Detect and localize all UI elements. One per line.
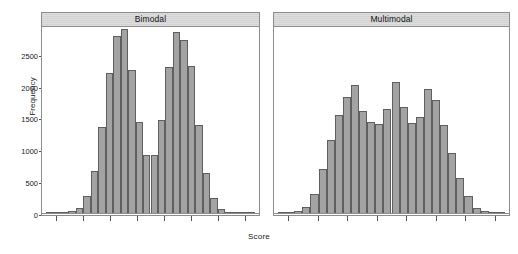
y-axis-tick-label: 0 <box>14 211 38 220</box>
histogram-bar <box>319 169 327 214</box>
panel-multimodal: Multimodal <box>273 12 510 216</box>
x-axis-tick-mark <box>495 216 496 221</box>
plot-area-bimodal <box>41 27 260 216</box>
histogram-bar <box>448 153 456 214</box>
histogram-bar <box>367 122 375 214</box>
x-axis-tick-mark <box>245 216 246 221</box>
histogram-bar <box>203 173 210 214</box>
x-axis-tick-mark <box>56 216 57 221</box>
x-axis-tick-mark <box>465 216 466 221</box>
y-axis-tick-label: 500 <box>14 179 38 188</box>
x-axis-tick-mark <box>288 216 289 221</box>
histogram-bar <box>136 122 143 214</box>
panel-strip-bimodal: Bimodal <box>41 12 260 27</box>
histogram-bar <box>151 155 158 214</box>
x-axis-tick-mark <box>137 216 138 221</box>
x-axis-tick-mark <box>347 216 348 221</box>
histogram-bar <box>432 100 440 214</box>
x-axis-tick-mark <box>377 216 378 221</box>
histogram-bar <box>359 111 367 214</box>
x-axis-tick-mark <box>406 216 407 221</box>
histogram-bar <box>121 29 128 214</box>
x-axis-bimodal <box>41 216 260 226</box>
panel-title-multimodal: Multimodal <box>370 15 412 24</box>
histogram-bar <box>456 178 464 214</box>
histogram-bar <box>91 171 98 214</box>
baseline-multimodal <box>274 213 509 214</box>
y-axis-tick-label: 1500 <box>14 115 38 124</box>
y-axis-tick-label: 2000 <box>14 83 38 92</box>
bar-group-bimodal <box>42 27 259 214</box>
histogram-figure: Frequency 05001000150020002500 Bimodal M… <box>0 0 518 254</box>
baseline-bimodal <box>42 213 259 214</box>
histogram-bar <box>210 198 217 214</box>
y-axis-tick-labels: 05001000150020002500 <box>14 0 38 254</box>
histogram-bar <box>327 140 335 214</box>
histogram-bar <box>195 125 202 214</box>
histogram-bar <box>158 120 165 214</box>
histogram-bar <box>143 155 150 214</box>
histogram-bar <box>408 123 416 214</box>
histogram-bar <box>383 109 391 214</box>
histogram-bar <box>128 70 135 214</box>
histogram-bar <box>392 82 400 214</box>
x-axis-multimodal <box>273 216 510 226</box>
panel-bimodal: Bimodal <box>41 12 260 216</box>
histogram-bar <box>464 196 472 214</box>
panel-strip-multimodal: Multimodal <box>273 12 510 27</box>
histogram-bar <box>335 115 343 214</box>
x-axis-tick-mark <box>110 216 111 221</box>
x-axis-tick-mark <box>191 216 192 221</box>
histogram-bar <box>106 73 113 214</box>
x-axis-label: Score <box>0 232 518 241</box>
x-axis-tick-mark <box>318 216 319 221</box>
histogram-bar <box>188 66 195 214</box>
y-axis-tick-label: 1000 <box>14 147 38 156</box>
histogram-bar <box>351 85 359 214</box>
histogram-bar <box>98 127 105 214</box>
histogram-bar <box>180 40 187 214</box>
x-axis-tick-mark <box>164 216 165 221</box>
histogram-bar <box>440 125 448 214</box>
x-axis-tick-mark <box>83 216 84 221</box>
histogram-bar <box>416 117 424 215</box>
histogram-bar <box>375 124 383 214</box>
histogram-bar <box>83 196 90 214</box>
x-axis-tick-mark <box>218 216 219 221</box>
plot-area-multimodal <box>273 27 510 216</box>
panel-title-bimodal: Bimodal <box>135 15 166 24</box>
histogram-bar <box>113 36 120 214</box>
histogram-bar <box>343 97 351 214</box>
histogram-bar <box>310 194 318 214</box>
histogram-bar <box>424 89 432 214</box>
histogram-bar <box>400 107 408 214</box>
y-axis-tick-label: 2500 <box>14 51 38 60</box>
bar-group-multimodal <box>274 27 509 214</box>
histogram-bar <box>165 67 172 214</box>
x-axis-tick-mark <box>436 216 437 221</box>
histogram-bar <box>173 32 180 214</box>
